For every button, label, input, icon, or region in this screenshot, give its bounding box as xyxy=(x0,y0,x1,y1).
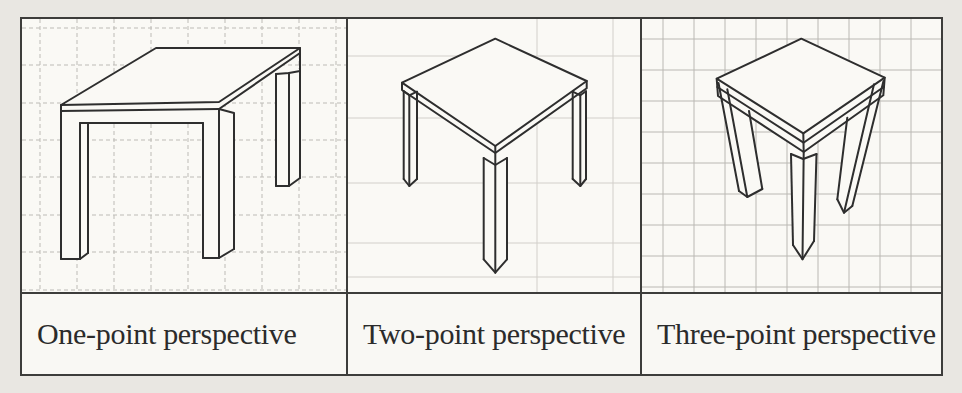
panel-one-point: One-point perspective xyxy=(22,19,348,374)
three-point-caption: Three-point perspective xyxy=(657,317,936,351)
one-point-caption-cell: One-point perspective xyxy=(22,294,346,374)
three-point-drawing-cell xyxy=(642,19,941,294)
panel-three-point: Three-point perspective xyxy=(642,19,941,374)
one-point-caption: One-point perspective xyxy=(37,317,296,351)
three-point-caption-cell: Three-point perspective xyxy=(642,294,941,374)
perspective-comparison-table: One-point perspective xyxy=(20,17,943,376)
two-point-caption-cell: Two-point perspective xyxy=(348,294,640,374)
table-faces xyxy=(61,48,300,260)
one-point-table-drawing xyxy=(22,19,346,292)
one-point-drawing-cell xyxy=(22,19,346,294)
two-point-caption: Two-point perspective xyxy=(363,317,625,351)
two-point-table-drawing xyxy=(348,19,640,292)
two-point-drawing-cell xyxy=(348,19,640,294)
panel-two-point: Two-point perspective xyxy=(348,19,642,374)
three-point-table-drawing xyxy=(642,19,941,292)
scanned-figure-page: One-point perspective xyxy=(0,0,962,393)
